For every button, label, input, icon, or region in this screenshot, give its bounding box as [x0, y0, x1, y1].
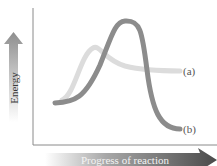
curve-b	[55, 21, 180, 129]
curve-a	[62, 47, 180, 100]
curve-a-label: (a)	[183, 65, 196, 78]
curve-b-label: (b)	[183, 123, 196, 136]
y-axis-label: Energy	[8, 72, 20, 104]
energy-diagram: Energy (a) (b) Progress of reaction	[0, 0, 217, 166]
x-axis-label: Progress of reaction	[81, 154, 169, 166]
progress-axis-arrow: Progress of reaction	[45, 148, 217, 166]
energy-axis-arrow: Energy	[4, 32, 23, 122]
